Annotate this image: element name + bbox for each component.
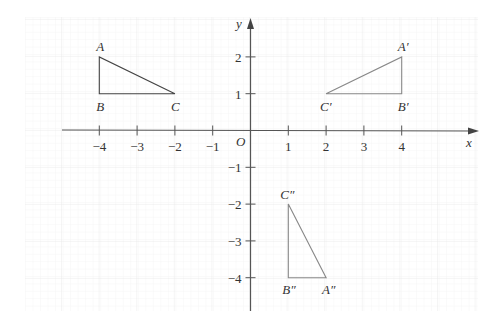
- y-tick-label: −2: [228, 197, 242, 212]
- vertex-label: A″: [321, 282, 336, 297]
- origin-label: O: [236, 134, 246, 149]
- coordinate-plane: −4−3−2−1123421−1−2−3−4 x y O ABCA′B′C′A″…: [0, 0, 500, 329]
- vertex-label: A′: [397, 39, 409, 54]
- grid-paper: [25, 17, 478, 311]
- y-tick-label: −3: [228, 234, 242, 249]
- x-axis-label: x: [465, 135, 472, 150]
- x-tick-label: 4: [398, 139, 405, 154]
- y-tick-label: −1: [228, 160, 242, 175]
- vertex-label: C: [171, 99, 180, 114]
- vertex-label: A: [95, 39, 104, 54]
- y-tick-label: −4: [228, 271, 242, 286]
- x-tick-label: −4: [92, 139, 106, 154]
- x-tick-label: −1: [206, 139, 220, 154]
- x-tick-label: −3: [130, 139, 144, 154]
- x-tick-label: 1: [285, 139, 292, 154]
- y-tick-label: 2: [235, 50, 242, 65]
- y-axis-label: y: [234, 16, 242, 31]
- x-tick-label: 3: [361, 139, 368, 154]
- x-tick-label: −2: [168, 139, 182, 154]
- y-tick-label: 1: [235, 87, 242, 102]
- vertex-label: C″: [280, 187, 295, 202]
- vertex-label: B: [96, 99, 104, 114]
- vertex-label: B″: [282, 282, 296, 297]
- vertex-label: C′: [320, 99, 332, 114]
- vertex-label: B′: [398, 99, 409, 114]
- x-tick-label: 2: [323, 139, 330, 154]
